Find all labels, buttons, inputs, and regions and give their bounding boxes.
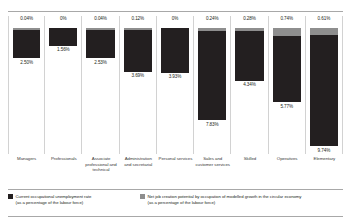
legend-label-unemployment-rate: Current occupational unemployment rate (… [16,194,92,205]
bar-value-label-potential: 0.04% [82,16,118,22]
chart-column: 0.04%2.53% [82,16,119,154]
category-axis-labels: ManagersProfessionalsAssociate professio… [8,156,343,186]
category-label: Professionals [45,156,82,162]
legend-item-job-creation-potential: Net job creation potential by occupation… [140,194,345,205]
bar-segment-unemployment [49,28,77,46]
bar-value-label-unemployment: 2.50% [9,60,44,66]
chart-column: 0.12%3.69% [120,16,157,154]
category-label: Personal services [157,156,194,162]
legend-label-line1: Current occupational unemployment rate [16,194,92,200]
bar-segment-unemployment [13,30,40,59]
top-divider-rule [8,11,343,12]
category-label: Managers [8,156,45,162]
chart-column: 0%3.93% [157,16,194,154]
chart-legend: Current occupational unemployment rate (… [8,194,343,214]
stacked-bar [306,28,342,146]
legend-swatch-dark-icon [8,194,13,199]
stacked-bar [120,28,156,72]
bar-value-label-unemployment: 1.56% [45,47,81,53]
bar-value-label-potential: 0.04% [9,16,44,22]
bar-segment-unemployment [235,31,263,80]
category-label: Administration and secretarial [120,156,157,167]
bar-segment-unemployment [198,31,226,120]
stacked-bar [269,28,305,102]
bar-value-label-potential: 0.12% [120,16,156,22]
category-label: Elementary [306,156,343,162]
bar-value-label-potential: 0.74% [269,16,305,22]
bar-segment-unemployment [161,28,189,73]
legend-swatch-grey-icon [140,194,145,199]
legend-label-line2: (as a percentage of the labour force) [16,200,92,206]
bar-value-label-potential: 0.24% [194,16,230,22]
bar-value-label-unemployment: 3.93% [157,74,193,80]
chart-column: 0.28%4.34% [231,16,268,154]
legend-label-line2: (as a percentage of the labour force) [148,200,302,206]
bar-segment-unemployment [124,30,152,72]
bar-segment-potential [310,28,338,35]
stacked-bar [157,28,193,73]
bar-value-label-unemployment: 4.34% [231,82,267,88]
bottom-divider-rule [8,216,343,217]
stacked-bar [45,28,81,46]
chart-column: 0.04%2.50% [8,16,45,154]
category-label: Associate professional and technical [82,156,119,173]
plot-area: 0.04%2.50%0%1.56%0.04%2.53%0.12%3.69%0%3… [8,16,343,154]
bar-value-label-potential: 0.28% [231,16,267,22]
category-label: Skilled [231,156,268,162]
chart-column: 0.74%5.77% [269,16,306,154]
stacked-bar [82,28,118,58]
legend-item-unemployment-rate: Current occupational unemployment rate (… [8,194,138,205]
bar-segment-unemployment [273,36,301,102]
bar-value-label-unemployment: 9.74% [306,148,342,154]
bar-value-label-unemployment: 7.83% [194,122,230,128]
bar-segment-unemployment [86,30,114,59]
bar-value-label-potential: 0% [157,16,193,22]
category-label: Sales and customer services [194,156,231,167]
chart-figure: 0.04%2.50%0%1.56%0.04%2.53%0.12%3.69%0%3… [0,0,351,224]
stacked-bar [9,28,44,58]
bar-value-label-unemployment: 3.69% [120,73,156,79]
legend-label-job-creation-potential: Net job creation potential by occupation… [148,194,302,205]
stacked-bar [231,28,267,81]
chart-column: 0%1.56% [45,16,82,154]
category-label: Operatives [269,156,306,162]
legend-label-line1: Net job creation potential by occupation… [148,194,302,200]
bar-segment-potential [273,28,301,36]
legend-divider-rule [8,189,343,190]
bar-value-label-unemployment: 2.53% [82,60,118,66]
bar-value-label-potential: 0% [45,16,81,22]
bar-segment-unemployment [310,35,338,146]
chart-column: 0.61%9.74% [306,16,343,154]
stacked-bar [194,28,230,120]
chart-column: 0.24%7.83% [194,16,231,154]
bar-value-label-unemployment: 5.77% [269,104,305,110]
bar-value-label-potential: 0.61% [306,16,342,22]
